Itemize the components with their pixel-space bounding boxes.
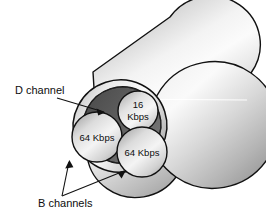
b-channel-arrowhead-left [65,160,73,169]
label-64kbps-right: 64 Kbps [125,147,160,158]
b-channels-label: B channels [38,197,93,209]
isdn-cable-diagram: 16 Kbps 64 Kbps 64 Kbps D channel B chan… [0,0,266,217]
label-16kbps-line2: Kbps [127,111,149,122]
label-16kbps-line1: 16 [133,99,144,110]
label-64kbps-left: 64 Kbps [80,132,115,143]
diagram-canvas: 16 Kbps 64 Kbps 64 Kbps D channel B chan… [0,0,266,217]
d-channel-label: D channel [15,84,65,96]
